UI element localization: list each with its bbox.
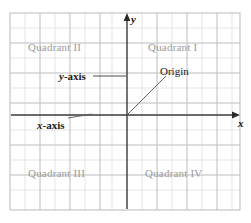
quadrant-label-4: Quadrant IV <box>145 168 203 179</box>
quadrant-label-3: Quadrant III <box>28 168 85 179</box>
x-axis-name-label: x <box>238 118 244 129</box>
quadrant-label-2: Quadrant II <box>28 42 81 53</box>
coordinate-plane-canvas <box>0 0 251 223</box>
x-axis-callout-label: x-axis <box>37 120 65 131</box>
y-axis-callout-rest: -axis <box>64 70 86 82</box>
origin-label: Origin <box>160 66 189 77</box>
y-axis-name-label: y <box>131 14 136 25</box>
quadrant-label-1: Quadrant I <box>148 42 197 53</box>
coordinate-plane-figure: Quadrant II Quadrant I Quadrant III Quad… <box>0 0 251 223</box>
x-axis-callout-rest: -axis <box>43 119 65 131</box>
y-axis-callout-label: y-axis <box>59 71 86 82</box>
